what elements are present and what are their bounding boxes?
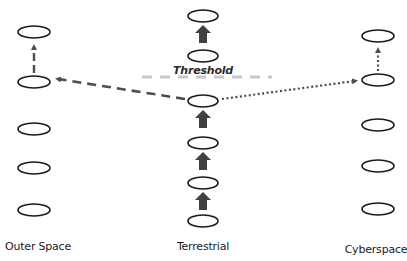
- block-arrow-up-icon: [195, 152, 211, 170]
- terrestrial-block-arrows: [195, 25, 211, 210]
- threshold-label: Threshold: [173, 64, 233, 77]
- cyberspace-nodes: [362, 30, 394, 215]
- domain-diagram: [0, 0, 407, 261]
- outer-space-node-3: [18, 123, 50, 135]
- cyberspace-label: Cyberspace: [345, 243, 407, 256]
- cyberspace-node-4: [362, 160, 394, 172]
- cyberspace-node-2: [362, 74, 394, 86]
- outer-space-node-1: [18, 26, 50, 38]
- terrestrial-node-3: [188, 95, 218, 107]
- terrestrial-node-4: [188, 137, 218, 149]
- outer-space-node-4: [18, 162, 50, 174]
- outer-space-node-2: [18, 76, 50, 88]
- outer-space-node-5: [18, 204, 50, 216]
- dotted-arrow-to-cyberspace: [222, 81, 355, 99]
- dashed-arrow-to-outer-space: [58, 79, 185, 99]
- block-arrow-up-icon: [195, 110, 211, 128]
- terrestrial-node-6: [188, 215, 218, 227]
- terrestrial-node-2: [188, 50, 218, 62]
- block-arrow-up-icon: [195, 25, 211, 43]
- block-arrow-up-icon: [195, 192, 211, 210]
- cyberspace-node-5: [362, 203, 394, 215]
- cyberspace-node-3: [362, 119, 394, 131]
- outer-space-label: Outer Space: [5, 240, 71, 253]
- terrestrial-node-5: [188, 177, 218, 189]
- terrestrial-label: Terrestrial: [177, 240, 229, 253]
- terrestrial-node-1: [188, 10, 218, 22]
- cyberspace-node-1: [362, 30, 394, 42]
